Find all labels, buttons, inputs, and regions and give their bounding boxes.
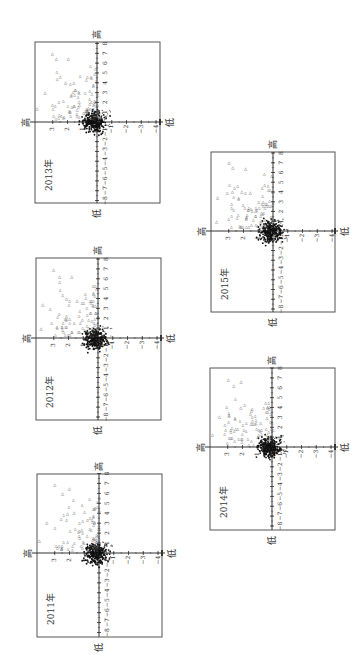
svg-text:△: △ — [96, 93, 99, 97]
x-tick-label: −8 — [276, 521, 283, 530]
svg-text:△: △ — [67, 505, 70, 509]
svg-text:△: △ — [92, 545, 95, 549]
svg-text:△: △ — [88, 97, 91, 101]
svg-text:△: △ — [67, 303, 70, 307]
svg-text:△: △ — [237, 196, 240, 200]
svg-text:△: △ — [270, 204, 273, 208]
axis-label-high: 高 — [20, 118, 31, 127]
svg-text:△: △ — [227, 377, 231, 382]
y-tick-label: 2 — [64, 343, 71, 347]
y-tick-label: −4 — [153, 340, 160, 349]
svg-text:△: △ — [241, 437, 244, 441]
svg-text:△: △ — [70, 94, 73, 98]
x-tick-label: 3 — [277, 200, 284, 204]
svg-text:△: △ — [90, 334, 93, 338]
svg-text:△: △ — [94, 67, 97, 71]
svg-text:△: △ — [66, 540, 69, 544]
x-tick-label: 4 — [101, 81, 108, 85]
svg-text:△: △ — [265, 410, 268, 414]
svg-text:△: △ — [211, 432, 215, 437]
x-tick-label: 5 — [102, 287, 109, 291]
x-tick-label: −5 — [276, 492, 283, 501]
svg-text:△: △ — [84, 292, 87, 296]
svg-text:△: △ — [78, 521, 81, 525]
svg-text:△: △ — [44, 90, 48, 95]
y-tick-label: 2 — [63, 127, 70, 131]
svg-text:△: △ — [92, 515, 95, 519]
svg-text:△: △ — [268, 407, 271, 411]
svg-text:△: △ — [55, 56, 59, 61]
x-tick-label: −7 — [277, 295, 284, 304]
svg-text:△: △ — [88, 497, 91, 501]
x-tick-label: 7 — [276, 376, 283, 380]
svg-text:△: △ — [90, 75, 93, 79]
svg-text:△: △ — [267, 188, 270, 192]
svg-text:△: △ — [66, 317, 69, 321]
svg-text:△: △ — [234, 397, 237, 401]
axis-label-high: 高 — [21, 334, 32, 343]
x-tick-label: −2 — [276, 462, 283, 471]
svg-text:△: △ — [62, 321, 65, 325]
x-tick-label: −8 — [103, 628, 110, 637]
y-tick-label: 2 — [239, 236, 246, 240]
svg-text:△: △ — [60, 517, 63, 521]
svg-text:△: △ — [94, 311, 97, 315]
axis-label-low: 低 — [166, 549, 177, 558]
svg-text:△: △ — [75, 298, 79, 303]
axis-label-low: 低 — [267, 318, 278, 327]
svg-text:△: △ — [73, 510, 77, 515]
svg-text:△: △ — [77, 105, 80, 109]
y-tick-label: −2 — [124, 555, 131, 564]
svg-text:△: △ — [237, 213, 240, 217]
svg-text:△: △ — [59, 288, 62, 292]
svg-text:△: △ — [72, 80, 76, 85]
svg-text:△: △ — [88, 102, 91, 106]
svg-text:△: △ — [227, 420, 230, 424]
svg-text:△: △ — [81, 301, 84, 305]
panel-year-label: 2015年 — [219, 268, 230, 300]
svg-text:△: △ — [69, 529, 72, 533]
svg-text:△: △ — [85, 78, 88, 82]
svg-text:△: △ — [60, 114, 63, 118]
svg-text:△: △ — [92, 507, 95, 511]
svg-text:△: △ — [271, 190, 274, 194]
x-tick-label: −5 — [101, 166, 108, 175]
x-tick-label: 5 — [103, 501, 110, 505]
svg-text:△: △ — [64, 80, 68, 85]
svg-text:△: △ — [230, 225, 233, 229]
scatter-panel-2013: −8−7−6−5−4−3−2−112345678321−1−2−3−4高低高低2… — [20, 30, 175, 218]
svg-text:△: △ — [78, 536, 81, 540]
x-tick-label: 7 — [102, 267, 109, 271]
svg-text:△: △ — [245, 217, 248, 221]
x-tick-label: −2 — [102, 353, 109, 362]
svg-text:△: △ — [92, 83, 95, 87]
svg-text:△: △ — [41, 302, 45, 307]
svg-text:△: △ — [54, 526, 57, 530]
x-tick-label: −4 — [103, 588, 110, 597]
svg-text:△: △ — [98, 496, 101, 500]
svg-text:△: △ — [259, 214, 262, 218]
y-tick-label: −2 — [298, 233, 305, 242]
x-tick-label: 8 — [101, 41, 108, 45]
axis-label-high: 高 — [22, 549, 33, 558]
svg-text:△: △ — [242, 203, 245, 207]
svg-text:△: △ — [86, 75, 89, 79]
svg-text:△: △ — [57, 100, 60, 104]
svg-text:△: △ — [223, 432, 226, 436]
x-tick-label: −3 — [101, 147, 108, 156]
x-tick-label: 6 — [101, 61, 108, 65]
x-tick-label: 7 — [103, 481, 110, 485]
x-tick-label: −8 — [101, 196, 108, 205]
svg-text:△: △ — [265, 224, 268, 228]
y-tick-label: 3 — [50, 558, 57, 562]
svg-text:△: △ — [245, 429, 248, 433]
x-tick-label: −4 — [277, 265, 284, 274]
x-tick-label: −3 — [103, 578, 110, 587]
y-tick-label: 3 — [224, 236, 231, 240]
x-tick-label: 2 — [101, 100, 108, 104]
svg-text:△: △ — [53, 482, 57, 487]
x-tick-label: 8 — [102, 257, 109, 261]
svg-text:△: △ — [96, 548, 99, 552]
svg-text:△: △ — [247, 208, 250, 212]
x-tick-label: −8 — [277, 304, 284, 313]
